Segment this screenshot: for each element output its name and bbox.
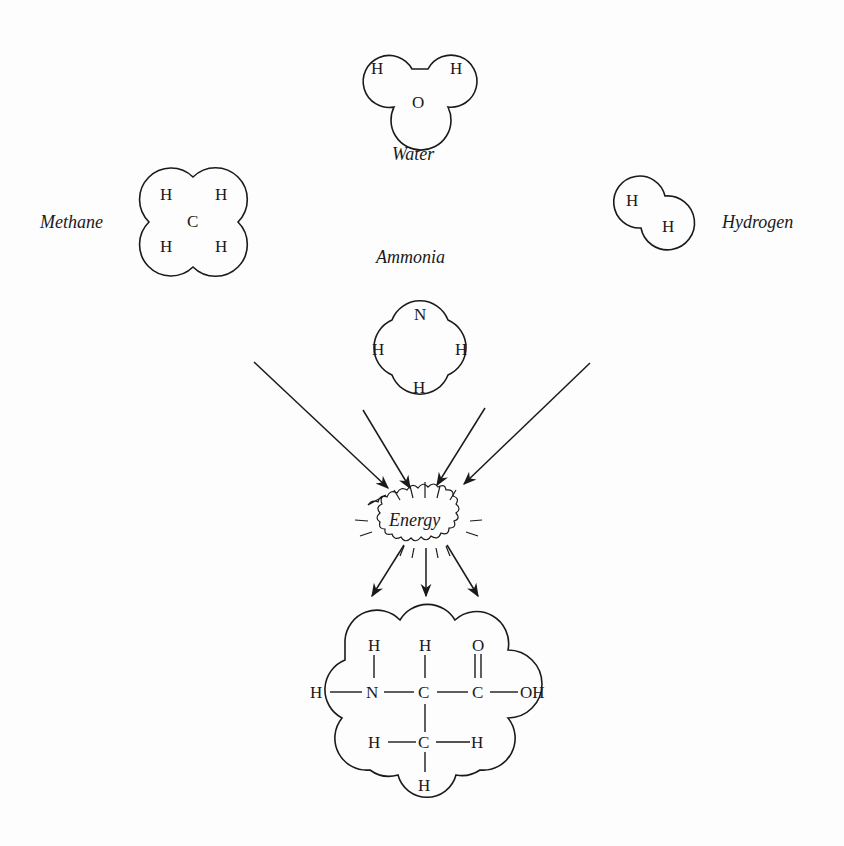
origin-of-life-diagram: H H O Water H H C H H Methane H H Hydrog… (0, 0, 844, 846)
atom-o: O (472, 636, 484, 655)
ammonia-molecule: N H H H Ammonia (372, 247, 467, 397)
hydrogen-label: Hydrogen (721, 212, 793, 232)
energy-label: Energy (388, 510, 440, 530)
atom-h: H (160, 237, 172, 256)
ammonia-label: Ammonia (375, 247, 445, 267)
atom-h: H (310, 683, 322, 702)
atom-h: H (368, 733, 380, 752)
atom-h: H (371, 59, 383, 78)
atom-h: H (418, 776, 430, 795)
atom-h: H (372, 340, 384, 359)
atom-n: N (366, 683, 378, 702)
atom-h: H (368, 636, 380, 655)
atom-h: H (662, 217, 674, 236)
atom-c: C (418, 733, 429, 752)
alanine-outline (325, 604, 542, 797)
alanine-molecule: H H O H N C C OH H C H H (310, 604, 545, 797)
arrow-icon (372, 545, 404, 596)
atom-h: H (419, 636, 431, 655)
atom-c: C (472, 683, 483, 702)
atom-h: H (450, 59, 462, 78)
hydrogen-molecule: H H Hydrogen (614, 176, 794, 250)
atom-n: N (414, 305, 426, 324)
hydrogen-outline (614, 176, 695, 250)
atom-h: H (160, 185, 172, 204)
water-molecule: H H O Water (363, 55, 477, 164)
arrow-icon (447, 545, 478, 596)
atom-c: C (187, 212, 198, 231)
output-arrows (372, 545, 478, 596)
methane-label: Methane (39, 212, 103, 232)
atom-o: O (412, 93, 424, 112)
atom-h: H (471, 733, 483, 752)
arrow-icon (254, 362, 388, 488)
atom-h: H (215, 185, 227, 204)
atom-oh: OH (520, 683, 545, 702)
atom-h: H (413, 378, 425, 397)
atom-h: H (626, 191, 638, 210)
energy-burst: Energy (355, 482, 482, 558)
arrow-icon (464, 363, 590, 484)
water-label: Water (392, 144, 435, 164)
atom-h: H (215, 237, 227, 256)
arrow-icon (437, 408, 485, 485)
atom-c: C (418, 683, 429, 702)
arrow-icon (363, 410, 410, 488)
methane-molecule: H H C H H Methane (39, 168, 247, 277)
atom-h: H (455, 340, 467, 359)
bonds (330, 654, 518, 772)
